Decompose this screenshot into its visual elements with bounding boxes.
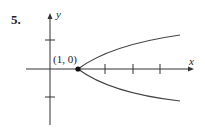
vertex-point bbox=[75, 66, 80, 71]
x-axis-arrow-icon bbox=[188, 67, 194, 72]
x-axis-label: x bbox=[189, 55, 194, 67]
y-axis-label: y bbox=[56, 8, 61, 20]
graph bbox=[0, 0, 205, 137]
vertex-label: (1, 0) bbox=[53, 53, 77, 65]
y-axis-arrow-icon bbox=[48, 13, 53, 19]
parabola-curve bbox=[78, 35, 180, 101]
